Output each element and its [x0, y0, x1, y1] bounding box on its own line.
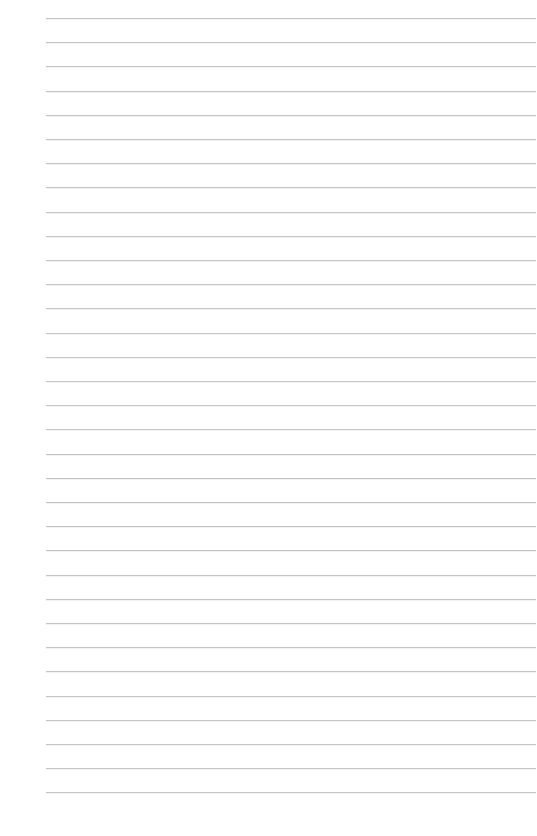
ruled-line	[46, 187, 536, 188]
ruled-line	[46, 308, 536, 309]
ruled-line	[46, 91, 536, 92]
ruled-line	[46, 66, 536, 67]
ruled-line	[46, 526, 536, 527]
ruled-line	[46, 478, 536, 479]
ruled-line	[46, 623, 536, 624]
lined-paper-page	[0, 0, 537, 836]
ruled-line	[46, 744, 536, 745]
ruled-line	[46, 212, 536, 213]
ruled-line	[46, 139, 536, 140]
ruled-line	[46, 454, 536, 455]
ruled-line	[46, 18, 536, 19]
ruled-line	[46, 502, 536, 503]
ruled-line	[46, 163, 536, 164]
ruled-line	[46, 333, 536, 334]
ruled-line	[46, 575, 536, 576]
ruled-line	[46, 792, 536, 793]
ruled-line	[46, 768, 536, 769]
ruled-line	[46, 550, 536, 551]
ruled-line	[46, 42, 536, 43]
ruled-line	[46, 720, 536, 721]
ruled-line	[46, 115, 536, 116]
ruled-line	[46, 284, 536, 285]
ruled-line	[46, 429, 536, 430]
ruled-line	[46, 405, 536, 406]
ruled-line	[46, 260, 536, 261]
ruled-line	[46, 381, 536, 382]
ruled-line	[46, 671, 536, 672]
ruled-line	[46, 236, 536, 237]
ruled-line	[46, 357, 536, 358]
ruled-line	[46, 696, 536, 697]
ruled-line	[46, 599, 536, 600]
ruled-line	[46, 647, 536, 648]
